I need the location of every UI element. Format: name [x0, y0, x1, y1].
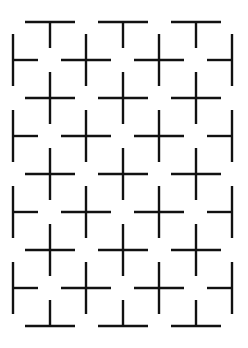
- cross-glyph: [61, 186, 111, 238]
- cross-glyph: [134, 110, 184, 162]
- cross-glyph: [134, 262, 184, 314]
- cross-glyph: [25, 148, 75, 200]
- t-glyph: [171, 22, 221, 48]
- cross-glyph: [25, 72, 75, 124]
- cross-glyph: [98, 224, 148, 276]
- right-t-glyph: [207, 186, 232, 238]
- cross-glyph: [25, 224, 75, 276]
- cross-glyph: [98, 148, 148, 200]
- right-t-glyph: [207, 34, 232, 86]
- left-t-glyph: [13, 34, 38, 86]
- inverted-t-glyph: [98, 300, 148, 326]
- cross-glyph: [98, 72, 148, 124]
- inverted-t-glyph: [25, 300, 75, 326]
- right-t-glyph: [207, 262, 232, 314]
- cross-glyph: [61, 110, 111, 162]
- left-t-glyph: [13, 262, 38, 314]
- cross-glyph: [61, 262, 111, 314]
- t-glyph: [98, 22, 148, 48]
- t-glyph: [25, 22, 75, 48]
- cross-glyph: [171, 72, 221, 124]
- cross-glyph: [171, 224, 221, 276]
- cross-glyph: [171, 148, 221, 200]
- left-t-glyph: [13, 186, 38, 238]
- cross-glyph: [134, 186, 184, 238]
- glyph-pattern: [0, 0, 248, 348]
- cross-glyph: [134, 34, 184, 86]
- cross-glyph: [61, 34, 111, 86]
- inverted-t-glyph: [171, 300, 221, 326]
- left-t-glyph: [13, 110, 38, 162]
- right-t-glyph: [207, 110, 232, 162]
